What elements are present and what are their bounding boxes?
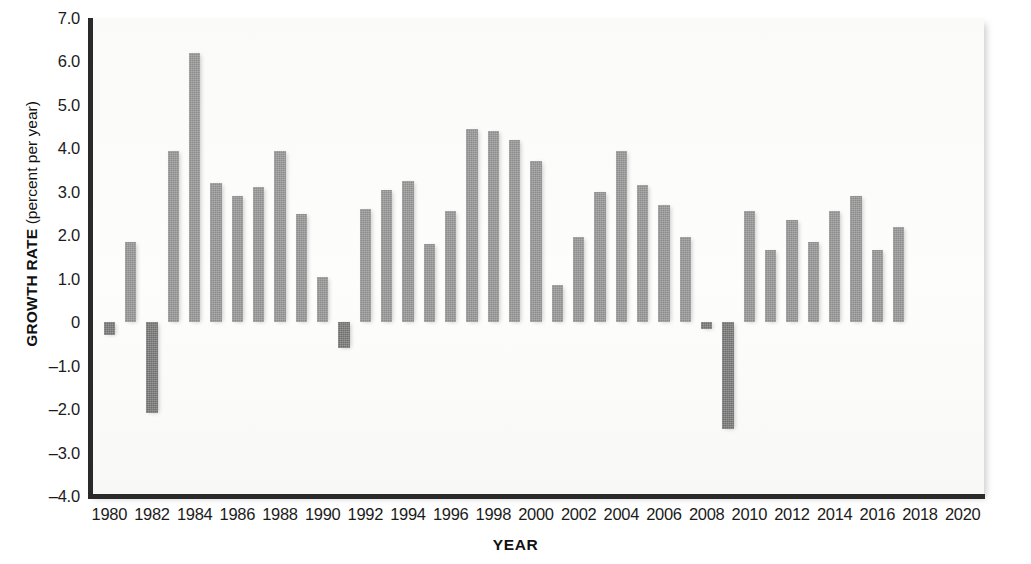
x-tick-label: 2000 [518,505,554,524]
x-tick-label: 1998 [476,505,512,524]
x-tick-label: 1996 [433,505,469,524]
x-axis-title: YEAR [0,536,1031,554]
y-axis-title-regular: (percent per year) [23,101,40,229]
x-tick-label: 2012 [774,505,810,524]
x-tick-label: 1990 [305,505,341,524]
x-tick-label: 1984 [177,505,213,524]
x-tick-label: 2016 [860,505,896,524]
y-axis-title-bold: GROWTH RATE [23,229,40,347]
x-tick-label: 2004 [604,505,640,524]
x-tick-label: 1986 [220,505,256,524]
x-tick-label: 2020 [945,505,981,524]
x-tick-label: 1982 [134,505,170,524]
x-tick-label: 2006 [646,505,682,524]
x-tick-label: 2008 [689,505,725,524]
y-axis-title: GROWTH RATE (percent per year) [23,24,41,424]
x-tick-label: 2014 [817,505,853,524]
x-axis-tick-labels: 1980198219841986198819901992199419961998… [0,0,1031,564]
x-tick-label: 1992 [348,505,384,524]
x-tick-label: 2018 [902,505,938,524]
x-tick-label: 2010 [732,505,768,524]
chart-figure: 7.06.05.04.03.02.01.00–1.0–2.0–3.0–4.0 1… [0,0,1031,564]
x-tick-label: 2002 [561,505,597,524]
x-tick-label: 1994 [390,505,426,524]
x-tick-label: 1988 [262,505,298,524]
x-tick-label: 1980 [92,505,128,524]
